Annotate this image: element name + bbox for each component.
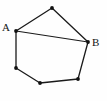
vertex-label-b: B [92,37,99,48]
vertex-dot-bottom-left [14,66,18,70]
vertex-dot-bottom-right [76,77,80,81]
vertex-dot-a [14,29,18,33]
vertex-dot-top [50,6,54,10]
polygon-canvas [0,0,107,101]
vertex-dot-bottom [38,81,42,85]
vertex-dot-b [86,40,90,44]
vertex-label-a: A [2,22,10,33]
polygon-figure: A B [0,0,107,101]
polygon-outline [16,8,88,83]
